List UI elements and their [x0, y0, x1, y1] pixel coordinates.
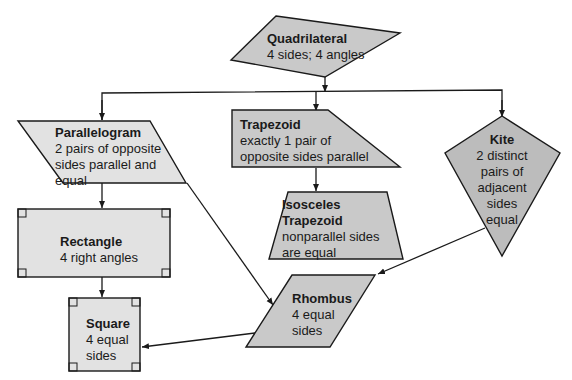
quadrilateral-label: Quadrilateral 4 sides; 4 angles: [267, 31, 365, 63]
isosceles-trapezoid-desc: nonparallel sides are equal: [282, 229, 380, 261]
rhombus-label: Rhombus 4 equal sides: [292, 291, 352, 339]
kite-title: Kite: [474, 132, 530, 148]
quadrilateral-desc: 4 sides; 4 angles: [267, 47, 365, 63]
rhombus-desc: 4 equal sides: [292, 307, 352, 339]
trapezoid-title: Trapezoid: [240, 117, 369, 133]
rectangle-label: Rectangle 4 right angles: [60, 234, 138, 266]
trapezoid-desc: exactly 1 pair of opposite sides paralle…: [240, 133, 369, 165]
isosceles-trapezoid-title: Isosceles Trapezoid: [282, 197, 380, 229]
edge-rhombus-square: [142, 333, 255, 347]
parallelogram-label: Parallelogram 2 pairs of opposite sides …: [55, 125, 161, 189]
parallelogram-desc: 2 pairs of opposite sides parallel and e…: [55, 141, 161, 189]
kite-desc: 2 distinct pairs of adjacent sides equal: [474, 148, 530, 228]
rectangle-title: Rectangle: [60, 234, 138, 250]
quadrilateral-title: Quadrilateral: [267, 31, 365, 47]
square-title: Square: [86, 316, 130, 332]
parallelogram-title: Parallelogram: [55, 125, 161, 141]
rectangle-desc: 4 right angles: [60, 250, 138, 266]
trapezoid-label: Trapezoid exactly 1 pair of opposite sid…: [240, 117, 369, 165]
rhombus-title: Rhombus: [292, 291, 352, 307]
square-label: Square 4 equal sides: [86, 316, 130, 364]
isosceles-trapezoid-label: Isosceles Trapezoid nonparallel sides ar…: [282, 197, 380, 261]
edge-parallelogram-rhombus: [187, 183, 273, 305]
kite-label: Kite 2 distinct pairs of adjacent sides …: [474, 132, 530, 228]
square-desc: 4 equal sides: [86, 332, 130, 364]
